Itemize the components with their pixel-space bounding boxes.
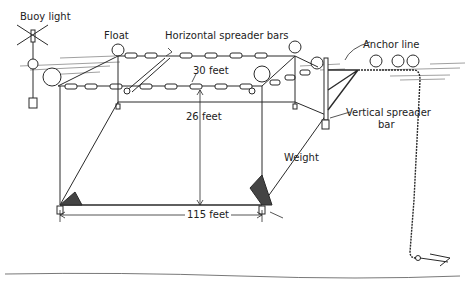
float-icon — [254, 66, 270, 82]
seabed — [5, 273, 460, 278]
net-pen-diagram: Buoy light Float Horizontal spreader bar… — [0, 0, 471, 286]
label-vertical-spreader-bar: Vertical spreader — [346, 108, 431, 118]
label-length-dimension: 115 feet — [185, 210, 231, 220]
float-icon — [43, 68, 61, 86]
float-icon — [370, 55, 382, 67]
float-icon — [311, 57, 323, 69]
buoy-light-icon — [17, 25, 48, 108]
anchor-icon — [416, 254, 451, 266]
float-icon — [112, 44, 124, 56]
label-weight: Weight — [284, 153, 319, 163]
label-buoy-light: Buoy light — [20, 12, 71, 22]
horizontal-spreader-bars — [65, 53, 310, 89]
label-vertical-spreader-bar-2: bar — [378, 120, 395, 130]
float-icon — [407, 55, 419, 67]
vertical-spreader-bar — [324, 58, 328, 120]
label-float: Float — [104, 31, 129, 41]
float-icon — [289, 41, 301, 53]
anchor-line — [358, 70, 420, 258]
label-anchor-line: Anchor line — [363, 40, 419, 50]
label-horizontal-spreader-bars: Horizontal spreader bars — [165, 31, 289, 41]
label-depth-dimension: 26 feet — [186, 112, 222, 122]
float-icon — [392, 55, 404, 67]
label-width-dimension: 30 feet — [193, 66, 229, 76]
